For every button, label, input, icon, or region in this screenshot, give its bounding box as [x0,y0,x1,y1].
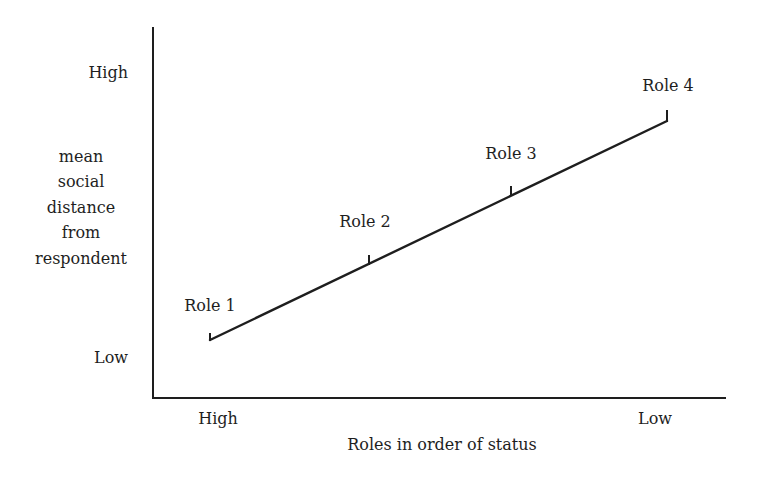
y-title-line: respondent [35,249,128,268]
x-axis-high-label: High [198,409,238,428]
trend-line [210,121,667,340]
x-axis-title: Roles in order of status [347,435,537,454]
y-title-line: distance [47,198,115,217]
role-status-social-distance-diagram: High Low mean social distance from respo… [0,0,761,480]
x-axis-low-label: Low [638,409,672,428]
y-axis-title: mean social distance from respondent [35,147,128,268]
y-axis-high-label: High [88,63,128,82]
y-axis-low-label: Low [94,348,128,367]
role-1-label: Role 1 [184,296,236,315]
y-title-line: social [58,172,105,191]
diagram-canvas: High Low mean social distance from respo… [0,0,761,480]
role-2-label: Role 2 [339,212,391,231]
role-4-label: Role 4 [642,76,694,95]
y-title-line: mean [59,147,103,166]
role-3-label: Role 3 [485,144,537,163]
y-title-line: from [62,223,100,242]
